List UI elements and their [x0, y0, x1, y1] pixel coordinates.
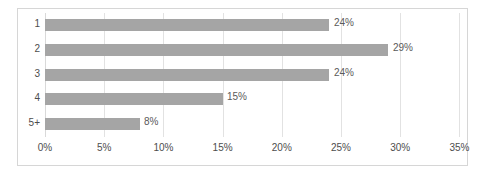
bar-4	[45, 93, 223, 105]
bar-row: 2 29%	[45, 38, 459, 63]
bar-5	[45, 118, 140, 130]
category-label: 1	[34, 17, 40, 30]
x-tick-label: 35%	[449, 141, 469, 155]
x-tick-label: 15%	[213, 141, 233, 155]
bar-row: 5+ 8%	[45, 112, 459, 137]
bar-1	[45, 19, 329, 31]
bar-3	[45, 69, 329, 81]
category-label: 2	[34, 42, 40, 55]
bar-value-label: 15%	[227, 90, 247, 103]
gridline-35	[459, 13, 460, 137]
bar-value-label: 24%	[334, 66, 354, 79]
x-tick-label: 0%	[38, 141, 52, 155]
x-tick-label: 30%	[390, 141, 410, 155]
bar-row: 4 15%	[45, 87, 459, 112]
category-label: 5+	[29, 116, 40, 129]
bar-2	[45, 44, 388, 56]
x-tick-label: 10%	[153, 141, 173, 155]
bar-chart: 1 24% 2 29% 3 24% 4 15% 5+ 8%	[17, 8, 468, 166]
category-label: 4	[34, 91, 40, 104]
plot-area: 1 24% 2 29% 3 24% 4 15% 5+ 8%	[45, 13, 459, 137]
bar-row: 1 24%	[45, 13, 459, 38]
bar-value-label: 8%	[144, 115, 158, 128]
x-axis: 0% 5% 10% 15% 20% 25% 30% 35%	[45, 141, 459, 157]
bar-value-label: 24%	[334, 16, 354, 29]
x-tick-label: 5%	[97, 141, 111, 155]
x-tick-label: 20%	[272, 141, 292, 155]
category-label: 3	[34, 67, 40, 80]
x-tick-label: 25%	[331, 141, 351, 155]
bar-value-label: 29%	[393, 41, 413, 54]
bar-row: 3 24%	[45, 63, 459, 88]
